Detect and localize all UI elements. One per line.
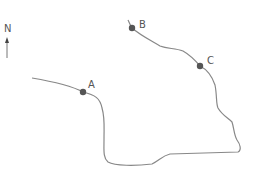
north-label: N (4, 23, 11, 34)
point-b-marker (129, 25, 135, 31)
arrow-up-icon (5, 37, 9, 43)
route-diagram: N A B C (0, 0, 253, 172)
route-path (32, 20, 240, 165)
point-a-marker (80, 89, 86, 95)
north-arrow: N (4, 23, 11, 58)
point-a-label: A (88, 79, 95, 90)
point-c-marker (197, 63, 203, 69)
point-b: B (129, 19, 146, 31)
point-c-label: C (207, 55, 214, 66)
point-b-label: B (139, 19, 146, 30)
point-c: C (197, 55, 214, 69)
